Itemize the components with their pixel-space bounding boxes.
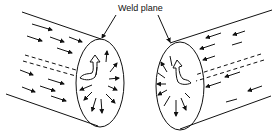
left-radial-flow-arrows xyxy=(80,51,119,113)
weld-plane-leader-left xyxy=(102,15,116,38)
right-weld-face xyxy=(156,42,204,130)
left-cylinder xyxy=(6,12,124,127)
weld-plane-label: Weld plane xyxy=(118,3,163,13)
left-axial-flow-arrows xyxy=(20,24,82,101)
diagram-graphic xyxy=(0,0,277,138)
left-weld-face xyxy=(76,39,124,127)
weld-plane-diagram: Weld plane xyxy=(0,0,277,138)
right-curl-arrow-icon xyxy=(173,60,191,84)
right-axial-flow-arrows xyxy=(195,31,264,102)
right-radial-flow-arrows xyxy=(157,56,190,116)
weld-plane-leader-right xyxy=(158,15,170,42)
left-curl-arrow-icon xyxy=(80,55,100,80)
right-cylinder xyxy=(156,10,272,130)
